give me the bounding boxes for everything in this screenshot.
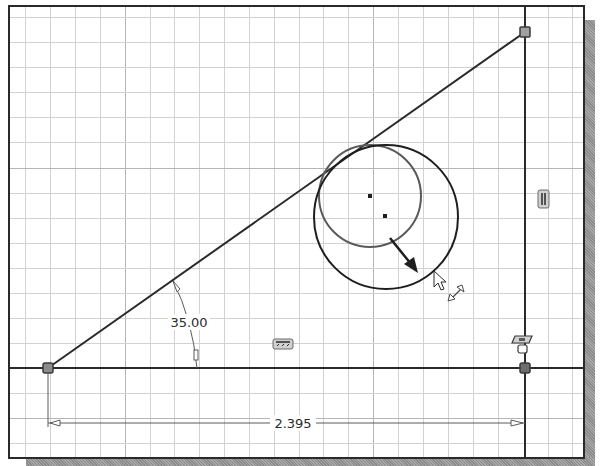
bottom-right-endpoint[interactable] bbox=[520, 363, 530, 373]
top-right-endpoint[interactable] bbox=[520, 27, 530, 37]
parallel-constraint-icon[interactable] bbox=[538, 190, 549, 208]
sketch-graphics[interactable]: 35.00 2.395 bbox=[0, 0, 601, 466]
pointer-cursor-icon bbox=[434, 271, 446, 290]
sketch-window: 35.00 2.395 bbox=[0, 0, 601, 466]
horizontal-constraint-icon[interactable] bbox=[273, 339, 293, 349]
dragged-circle-center[interactable] bbox=[383, 214, 387, 218]
hypotenuse-line[interactable] bbox=[48, 32, 525, 368]
fix-constraint-icon[interactable] bbox=[512, 336, 532, 353]
original-circle-center[interactable] bbox=[368, 194, 372, 198]
horizontal-dimension-value[interactable]: 2.395 bbox=[274, 416, 311, 431]
grid bbox=[10, 7, 583, 457]
bottom-left-endpoint[interactable] bbox=[43, 363, 53, 373]
horizontal-dimension[interactable]: 2.395 bbox=[48, 373, 525, 431]
angle-dimension-value[interactable]: 35.00 bbox=[170, 315, 207, 330]
